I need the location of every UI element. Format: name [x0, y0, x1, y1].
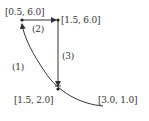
point-c-label: [1.5, 2.0] — [14, 95, 53, 105]
path-1-curve — [22, 24, 103, 106]
point-a — [20, 18, 23, 21]
point-a-label: [0.5, 6.0] — [5, 7, 44, 17]
path-3-label: (3) — [62, 51, 74, 61]
point-b-label: [1.5, 6.0] — [61, 15, 100, 25]
point-d-label: [3.0, 1.0] — [98, 95, 137, 105]
path-2-label: (2) — [32, 24, 44, 34]
point-c — [56, 87, 59, 90]
path-diagram: [0.5, 6.0] [1.5, 6.0] [1.5, 2.0] [3.0, 1… — [0, 0, 149, 121]
path-1-label: (1) — [12, 62, 24, 72]
point-b — [56, 18, 59, 21]
